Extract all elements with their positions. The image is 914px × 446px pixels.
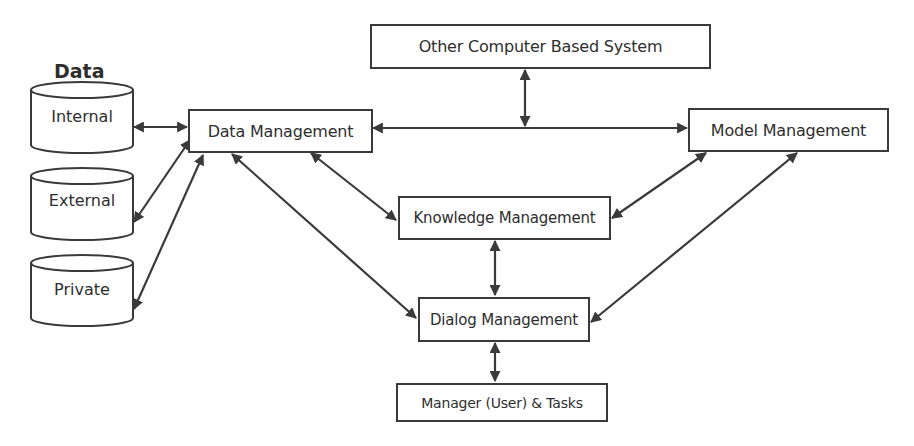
node-model-management: Model Management <box>688 108 889 152</box>
node-other-computer-system: Other Computer Based System <box>370 24 711 69</box>
node-knowledge-management: Knowledge Management <box>398 196 611 240</box>
data-source-internal: Internal <box>31 107 133 126</box>
node-label: Dialog Management <box>430 311 578 329</box>
node-manager-tasks: Manager (User) & Tasks <box>396 383 608 422</box>
arrow-data-knowledge <box>311 153 396 220</box>
node-label: Other Computer Based System <box>419 37 663 56</box>
data-sources-title: Data <box>54 60 105 82</box>
data-source-private: Private <box>31 280 133 299</box>
node-label: Model Management <box>711 121 866 140</box>
arrow-external-data <box>134 140 190 222</box>
arrow-private-data <box>134 155 203 309</box>
arrow-model-dialog <box>591 153 797 322</box>
node-data-management: Data Management <box>188 109 373 153</box>
arrow-data-dialog <box>232 154 416 318</box>
data-source-external: External <box>31 191 133 210</box>
node-dialog-management: Dialog Management <box>418 297 590 342</box>
arrow-model-knowledge <box>612 153 706 218</box>
node-label: Manager (User) & Tasks <box>421 395 583 411</box>
node-label: Knowledge Management <box>413 209 595 227</box>
node-label: Data Management <box>208 122 354 141</box>
